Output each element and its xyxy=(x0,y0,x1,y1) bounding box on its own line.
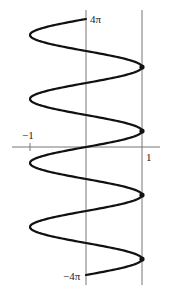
label-4pi: 4π xyxy=(90,14,101,25)
label-minus-4pi: −4π xyxy=(63,271,80,282)
label-1: 1 xyxy=(146,152,152,163)
tangency-dot xyxy=(139,256,144,261)
tangency-dot xyxy=(139,128,144,133)
tangency-dot xyxy=(139,64,144,69)
label-minus-1: −1 xyxy=(22,130,34,141)
chart-canvas xyxy=(0,0,169,296)
tangency-dot xyxy=(139,192,144,197)
